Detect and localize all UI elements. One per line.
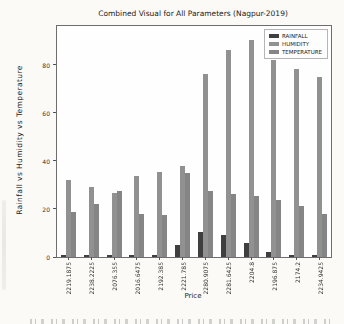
y-tick-label-60: 60 [32,109,50,116]
x-tick-mark-0 [68,257,69,260]
bar-temperature-2 [117,191,122,257]
y-tick-label-20: 20 [32,205,50,212]
cropped-caption-text [30,319,330,324]
x-tick-label-5: 2221.785 [179,262,186,295]
bar-temperature-8 [254,196,259,257]
x-tick-label-text-4: 2192.385 [156,262,163,291]
humidity-swatch-icon [269,42,279,46]
y-tick-mark-20 [53,208,56,209]
bar-temperature-11 [322,214,327,257]
x-tick-label-text-11: 2234.9425 [316,262,323,294]
bar-temperature-1 [94,204,99,257]
x-tick-mark-7 [228,257,229,260]
rainfall-swatch-icon [269,34,279,38]
x-tick-label-text-3: 2016.6475 [133,262,140,294]
y-tick-mark-40 [53,160,56,161]
bar-temperature-3 [139,214,144,257]
y-tick-mark-0 [53,257,56,258]
x-tick-label-4: 2192.385 [156,262,163,295]
x-tick-label-text-10: 2174.2 [293,262,300,283]
bar-temperature-7 [231,194,236,257]
x-tick-mark-5 [182,257,183,260]
x-tick-mark-9 [273,257,274,260]
figure: Combined Visual for All Parameters (Nagp… [0,0,344,324]
temperature-swatch-icon [269,50,279,54]
x-tick-mark-10 [296,257,297,260]
bar-temperature-6 [208,191,213,257]
x-tick-mark-8 [251,257,252,260]
x-tick-label-text-9: 2196.875 [270,262,277,291]
y-axis-label-text: Rainfall vs Humidity vs Temperature [15,40,24,240]
x-tick-mark-6 [205,257,206,260]
chart-title: Combined Visual for All Parameters (Nagp… [46,9,340,18]
bar-temperature-9 [276,200,281,257]
x-tick-label-text-6: 2280.9075 [202,262,209,294]
bar-temperature-0 [71,212,76,257]
bar-temperature-5 [185,173,190,257]
scan-artifact [2,200,6,290]
legend-label-rainfall: RAINFALL [282,33,308,39]
x-tick-mark-3 [136,257,137,260]
y-tick-label-80: 80 [32,61,50,68]
legend-row-temperature: TEMPERATURE [269,49,322,55]
x-tick-label-text-7: 2281.6425 [225,262,232,294]
y-tick-label-0: 0 [32,254,50,261]
x-tick-mark-1 [91,257,92,260]
x-tick-label-8: 2204.8 [248,262,255,287]
bar-temperature-4 [162,215,167,257]
legend-label-humidity: HUMIDITY [282,41,309,47]
legend-label-temperature: TEMPERATURE [282,49,322,55]
x-axis-label: Price [56,292,330,300]
y-tick-label-40: 40 [32,157,50,164]
x-tick-mark-11 [319,257,320,260]
x-tick-mark-2 [114,257,115,260]
legend: RAINFALL HUMIDITY TEMPERATURE [264,29,328,59]
y-tick-mark-80 [53,64,56,65]
legend-row-humidity: HUMIDITY [269,41,322,47]
x-tick-mark-4 [159,257,160,260]
x-tick-label-text-2: 2076.355 [111,262,118,291]
bar-temperature-10 [299,206,304,257]
legend-row-rainfall: RAINFALL [269,33,322,39]
x-tick-label-9: 2196.875 [270,262,277,295]
x-tick-label-text-0: 2219.1875 [65,262,72,294]
x-tick-label-text-5: 2221.785 [179,262,186,291]
y-tick-mark-60 [53,112,56,113]
plot-area: RAINFALL HUMIDITY TEMPERATURE 0204060802… [56,25,332,258]
x-tick-label-2: 2076.355 [111,262,118,295]
x-tick-label-text-1: 2238.2225 [88,262,95,294]
x-tick-label-text-8: 2204.8 [248,262,255,283]
x-tick-label-10: 2174.2 [293,262,300,287]
